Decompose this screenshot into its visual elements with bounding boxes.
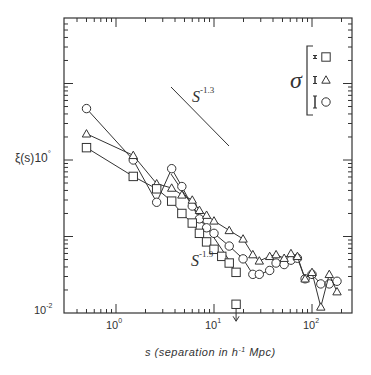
data-point-circle [272, 259, 280, 267]
data-point-square [188, 219, 196, 227]
data-point-circle [239, 255, 247, 263]
legend-sigma-label: σ [290, 67, 302, 94]
x-tick-label-1e2: 102 [303, 319, 319, 331]
data-point-square [195, 229, 203, 237]
data-point-square [232, 268, 240, 276]
data-point-triangle [317, 303, 325, 310]
legend [307, 46, 330, 115]
legend-entry-square [313, 53, 330, 61]
data-point-circle [178, 182, 186, 190]
circle-icon [322, 98, 330, 106]
data-point-triangle [333, 287, 341, 294]
y-axis-title: ξ(s)10° [15, 151, 51, 165]
data-point-circle [152, 198, 160, 206]
data-point-square [178, 209, 186, 217]
data-series [82, 104, 341, 321]
data-point-circle [82, 104, 90, 112]
data-point-triangle [325, 270, 333, 277]
slope-label-1-3: S-1.3 [192, 88, 214, 106]
data-point-triangle [129, 151, 137, 158]
data-point-square [129, 172, 137, 180]
x-tick-label-1e1: 101 [205, 319, 221, 331]
upper-limit-marker [232, 300, 240, 308]
data-point-triangle [287, 249, 295, 256]
triangle-icon [322, 76, 330, 83]
data-point-square [167, 197, 175, 205]
y-tick-label-1e-2: 10-2 [34, 304, 52, 316]
data-point-circle [210, 229, 218, 237]
data-point-square [82, 143, 90, 151]
legend-bracket [307, 46, 313, 115]
slope-label-1-9: S-1.9 [191, 252, 213, 270]
data-point-triangle [202, 211, 210, 218]
data-point-circle [255, 270, 263, 278]
data-point-triangle [239, 235, 247, 242]
legend-entry-circle [313, 96, 330, 108]
data-point-triangle [272, 250, 280, 257]
data-point-square [225, 259, 233, 267]
data-point-square [152, 185, 160, 193]
upper-limit-point [232, 300, 240, 321]
square-icon [322, 53, 330, 61]
series-triangle [82, 130, 341, 311]
x-axis-title: s (separation in h-1 Mpc) [145, 346, 276, 358]
data-point-circle [265, 266, 273, 274]
data-point-circle [167, 164, 175, 172]
x-tick-label-1e0: 100 [106, 319, 122, 331]
data-point-triangle [225, 226, 233, 233]
data-point-circle [317, 280, 325, 288]
data-point-triangle [249, 250, 257, 257]
data-point-circle [225, 242, 233, 250]
data-point-triangle [210, 217, 218, 224]
legend-entry-triangle [313, 76, 330, 84]
data-point-triangle [82, 130, 90, 137]
